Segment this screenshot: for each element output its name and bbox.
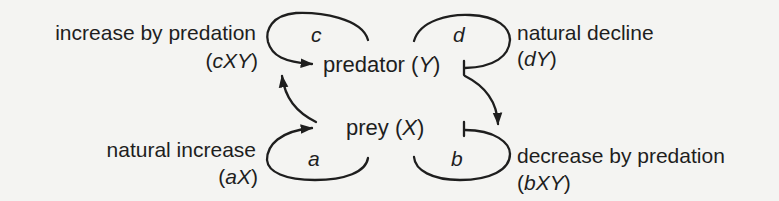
loop-b-coef: b	[451, 147, 463, 170]
node-predator: predator (Y)	[323, 52, 440, 77]
edge-prey-to-predator	[282, 76, 316, 122]
edge-predator-to-prey	[465, 76, 498, 124]
term-dY: (dY)	[517, 47, 557, 70]
loop-a-coef: a	[308, 147, 320, 170]
loop-b: b	[414, 122, 510, 180]
label-natural-increase: natural increase	[107, 138, 256, 161]
label-decrease-by-predation: decrease by predation	[517, 144, 725, 167]
term-aX: (aX)	[218, 165, 258, 188]
term-cXY: (cXY)	[205, 49, 258, 72]
term-bXY: (bXY)	[517, 171, 571, 194]
label-increase-by-predation: increase by predation	[55, 21, 256, 44]
loop-d-coef: d	[453, 23, 466, 46]
label-natural-decline: natural decline	[517, 21, 654, 44]
loop-c-coef: c	[311, 23, 322, 46]
predator-prey-diagram: c d a b predator (Y) prey (X) increase b…	[0, 0, 779, 201]
node-prey: prey (X)	[346, 115, 424, 140]
